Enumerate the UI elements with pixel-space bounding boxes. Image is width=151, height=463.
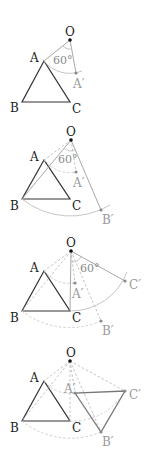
- label-b: B: [10, 199, 19, 213]
- angle-arc: [63, 46, 72, 49]
- triangle-abc: [22, 61, 70, 102]
- label-c: C: [72, 311, 81, 325]
- label-c: C: [72, 421, 81, 435]
- label-c-prime: C′: [129, 388, 141, 402]
- label-o: O: [66, 236, 76, 250]
- label-a: A: [29, 51, 39, 65]
- ray-oc: [70, 251, 71, 311]
- label-a: A: [29, 150, 39, 164]
- label-a: A: [29, 371, 39, 385]
- label-c: C: [72, 102, 81, 116]
- label-o: O: [66, 125, 76, 139]
- point-b-prime: [99, 430, 102, 433]
- label-a: A: [29, 261, 39, 275]
- rotation-diagram: O A B C A′ 60° O A B C A′ B′ 60°: [0, 0, 151, 463]
- label-a-prime: A′: [63, 382, 76, 396]
- label-c-prime: C′: [129, 278, 141, 292]
- triangle-a-prime-b-prime-c-prime: [75, 391, 125, 432]
- label-a-prime: A′: [72, 77, 85, 91]
- ray-oa: [44, 361, 70, 381]
- point-b-prime: [99, 319, 102, 322]
- label-b-prime: B′: [102, 435, 114, 449]
- point-a-prime: [74, 170, 77, 173]
- label-b-prime: B′: [102, 213, 114, 227]
- label-o: O: [65, 25, 75, 39]
- angle-label: 60°: [58, 153, 78, 166]
- angle-arc: [64, 148, 75, 151]
- triangle-abc: [22, 381, 70, 421]
- label-a-prime: A′: [71, 287, 84, 301]
- arc-b: [22, 311, 101, 328]
- point-b-prime: [99, 208, 102, 211]
- point-a-prime: [73, 281, 76, 284]
- panel-step-1: O A B C A′ 60°: [10, 25, 85, 116]
- point-c-prime: [123, 389, 126, 392]
- point-c-prime: [123, 279, 126, 282]
- label-a-prime: A′: [72, 176, 85, 190]
- panel-step-3: O A B C A′ B′ C′ 60°: [10, 236, 141, 338]
- arc-b: [22, 199, 110, 216]
- angle-label: 60°: [53, 54, 73, 67]
- angle-label: 60°: [80, 262, 100, 275]
- label-b: B: [10, 421, 19, 435]
- ray-ob: [22, 361, 70, 421]
- panel-step-2: O A B C A′ B′ 60°: [10, 125, 114, 227]
- point-a-prime: [74, 71, 77, 74]
- arc-b: [22, 421, 101, 438]
- label-b: B: [10, 311, 19, 325]
- label-o: O: [66, 346, 76, 360]
- ray-oa: [44, 251, 71, 271]
- label-b-prime: B′: [102, 324, 114, 338]
- label-b: B: [10, 101, 19, 115]
- triangle-abc: [22, 271, 70, 311]
- panel-step-4: O A B C A′ B′ C′: [10, 346, 141, 449]
- ray-oc-prime: [70, 361, 125, 391]
- label-c: C: [72, 199, 81, 213]
